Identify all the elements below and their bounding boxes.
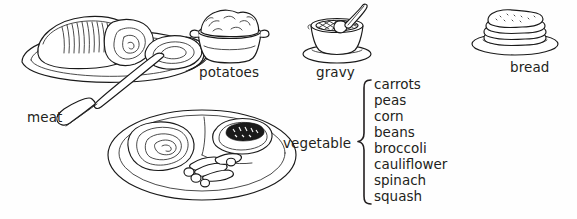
list-item: broccoli [374,140,494,156]
list-item: beans [374,124,494,140]
list-item: carrots [374,76,494,92]
list-item: squash [374,188,494,204]
vegetable-option-list: carrots peas corn beans broccoli caulifl… [374,76,494,204]
label-vegetable: vegetable [283,135,351,151]
list-item: peas [374,92,494,108]
list-item: corn [374,108,494,124]
diagram-canvas: meat potatoes [0,0,577,219]
list-item: cauliflower [374,156,494,172]
list-item: spinach [374,172,494,188]
